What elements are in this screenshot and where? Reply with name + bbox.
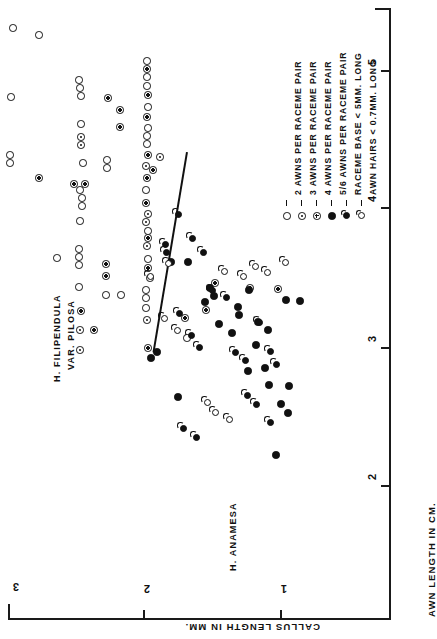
data-point — [90, 326, 98, 334]
data-point — [35, 174, 43, 182]
marker-hair-tail-icon — [171, 324, 178, 331]
marker-hair-tail-icon — [173, 307, 180, 314]
data-point — [274, 285, 282, 293]
data-point — [285, 382, 293, 390]
data-point — [143, 316, 151, 324]
marker-hair-tail-icon — [158, 312, 165, 319]
data-point — [264, 326, 272, 334]
data-point — [142, 218, 150, 226]
data-point — [143, 140, 151, 148]
data-point — [142, 294, 150, 302]
y-tick-3 — [381, 347, 389, 349]
data-point — [35, 31, 43, 39]
data-point — [282, 296, 290, 304]
marker-hair-tail-icon — [279, 256, 286, 263]
data-point — [153, 348, 161, 356]
data-point — [215, 320, 223, 328]
data-point — [228, 329, 236, 337]
data-point — [79, 159, 87, 167]
y-tick-label-2: 2 — [366, 474, 378, 480]
marker-hair-tail-icon — [185, 329, 192, 336]
data-point — [143, 73, 151, 81]
marker-hair-tail-icon — [186, 232, 193, 239]
marker-hair-tail-icon — [201, 396, 208, 403]
data-point — [261, 364, 269, 372]
data-point — [6, 151, 14, 159]
marker-hair-tail-icon — [160, 246, 167, 253]
data-point — [184, 258, 192, 266]
y-axis-line — [389, 8, 391, 620]
data-point — [144, 344, 152, 352]
marker-hair-tail-icon — [237, 270, 244, 277]
data-point — [144, 151, 152, 159]
y-axis-title: AWN LENGTH IN CM. — [426, 502, 437, 617]
data-point — [202, 306, 210, 314]
data-point — [234, 303, 242, 311]
data-point — [75, 76, 83, 84]
data-point — [103, 156, 111, 164]
data-point — [77, 133, 85, 141]
marker-hair-tail-icon — [264, 416, 271, 423]
data-point — [296, 297, 304, 305]
data-point — [70, 180, 78, 188]
data-point — [144, 124, 152, 132]
legend: 2 AWNS PER RACEME PAIR3 AWNS PER RACEME … — [283, 22, 378, 237]
data-point — [102, 272, 110, 280]
y-tick-5 — [381, 70, 389, 72]
data-point — [143, 132, 151, 140]
marker-hair-tail-icon — [253, 316, 260, 323]
data-point — [174, 393, 182, 401]
data-point — [116, 106, 124, 114]
data-point — [277, 400, 285, 408]
marker-hair-tail-icon — [249, 260, 256, 267]
data-point — [252, 341, 260, 349]
legend-label: 2 AWNS PER RACEME PAIR — [293, 61, 303, 195]
marker-hair-tail-icon — [223, 413, 230, 420]
legend-dash — [361, 200, 362, 206]
x-tick-label-1: 1 — [281, 583, 287, 595]
data-point — [75, 283, 83, 291]
legend-marker-icon — [298, 212, 306, 220]
data-point — [102, 291, 110, 299]
legend-dash — [331, 200, 332, 206]
x-axis-left-cap — [8, 604, 10, 620]
data-point — [116, 123, 124, 131]
legend-hair-tail-icon — [356, 210, 363, 217]
marker-hair-tail-icon — [270, 358, 277, 365]
x-axis-title: CALLUS LENGTH IN MM. — [185, 622, 320, 633]
legend-label: 3 AWNS PER RACEME PAIR — [308, 61, 318, 195]
data-point — [9, 24, 17, 32]
data-point — [103, 164, 111, 172]
y-tick-label-3: 3 — [366, 336, 378, 342]
data-point — [201, 298, 209, 306]
data-point — [142, 186, 150, 194]
data-point — [117, 291, 125, 299]
legend-label: 4 AWNS PER RACEME PAIR — [323, 61, 333, 195]
data-point — [156, 153, 164, 161]
data-point — [77, 307, 85, 315]
marker-hair-tail-icon — [229, 346, 236, 353]
legend-dash — [346, 200, 347, 206]
legend-dash — [286, 200, 287, 206]
data-point — [144, 234, 152, 242]
data-point — [76, 217, 84, 225]
legend-dash — [316, 200, 317, 206]
data-point — [142, 199, 150, 207]
data-point — [284, 409, 292, 417]
marker-hair-tail-icon — [172, 208, 179, 215]
data-point — [144, 103, 152, 111]
data-point — [147, 354, 155, 362]
data-point — [143, 242, 151, 250]
data-point — [77, 120, 85, 128]
marker-hair-tail-icon — [197, 246, 204, 253]
data-point — [143, 174, 151, 182]
data-point — [53, 254, 61, 262]
marker-hair-tail-icon — [144, 270, 151, 277]
marker-hair-tail-icon — [239, 354, 246, 361]
x-tick-label-3: 3 — [13, 581, 19, 593]
data-point — [76, 326, 84, 334]
data-point — [143, 65, 151, 73]
marker-hair-tail-icon — [177, 422, 184, 429]
data-point — [272, 451, 280, 459]
legend-marker-icon — [283, 212, 291, 220]
